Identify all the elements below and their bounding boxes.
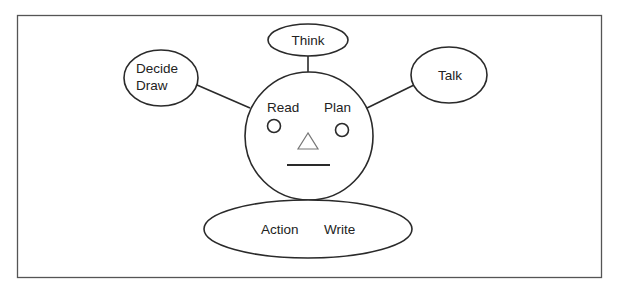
think-label: Think — [291, 33, 324, 48]
plan-label: Plan — [324, 100, 351, 115]
node-talk: Talk — [411, 47, 487, 103]
diagram-canvas: Read Plan Think Decide Draw Talk Action … — [0, 0, 618, 288]
left-eye-icon — [268, 120, 281, 133]
right-eye-icon — [336, 124, 349, 137]
center-face: Read Plan — [245, 72, 373, 200]
node-think: Think — [268, 24, 348, 56]
draw-label: Draw — [136, 78, 168, 93]
node-decide-draw: Decide Draw — [124, 50, 198, 106]
face-circle — [245, 72, 373, 200]
read-label: Read — [267, 100, 299, 115]
decide-label: Decide — [136, 61, 178, 76]
talk-label: Talk — [438, 68, 462, 83]
action-write-ellipse — [204, 200, 412, 258]
edge-decide-center — [197, 85, 250, 108]
action-label: Action — [261, 222, 299, 237]
write-label: Write — [324, 222, 355, 237]
node-action-write: Action Write — [204, 200, 412, 258]
edge-talk-center — [367, 85, 414, 108]
